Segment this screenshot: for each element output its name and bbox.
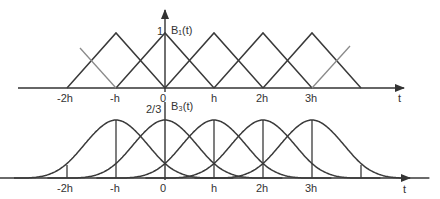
top-function-label: B₁(t) <box>171 24 192 36</box>
bottom-function-label: B₃(t) <box>171 100 193 112</box>
hat-center-h <box>165 33 263 88</box>
bottom-peak-label: 2/3 <box>146 103 161 115</box>
cubic-bspline-0 <box>0 120 233 178</box>
hat-center-3h <box>263 33 361 88</box>
hat-center-2h <box>214 33 312 88</box>
top-tick-2h: 2h <box>256 92 268 104</box>
hat-center-minus-h <box>67 33 165 88</box>
top-tick-h: h <box>211 92 217 104</box>
top-tick-3h: 3h <box>305 92 317 104</box>
top-axis-label: t <box>398 92 401 104</box>
top-peak-label: 1 <box>157 25 163 37</box>
top-tick-minus-2h: -2h <box>57 92 73 104</box>
knot-lines <box>67 120 361 178</box>
bottom-axis-label: t <box>403 183 406 195</box>
bottom-panel: 2/3 B₃(t) -2h -h 0 h 2h 3h t <box>0 100 429 195</box>
top-tick-minus-h: -h <box>110 92 120 104</box>
bottom-tick-2h: 2h <box>256 182 268 194</box>
hat-functions <box>67 33 361 88</box>
bottom-tick-minus-h: -h <box>110 182 120 194</box>
bottom-tick-0: 0 <box>160 182 166 194</box>
bottom-tick-h: h <box>211 182 217 194</box>
bottom-tick-3h: 3h <box>305 182 317 194</box>
bottom-tick-minus-2h: -2h <box>57 182 73 194</box>
partial-hat-right <box>312 46 350 88</box>
cubic-bspline-curves <box>0 120 429 178</box>
b-spline-diagram: 1 B₁(t) -2h -h 0 h 2h 3h t 2/3 B₃(t) -2h… <box>0 0 440 199</box>
top-panel: 1 B₁(t) -2h -h 0 h 2h 3h t <box>18 10 404 104</box>
